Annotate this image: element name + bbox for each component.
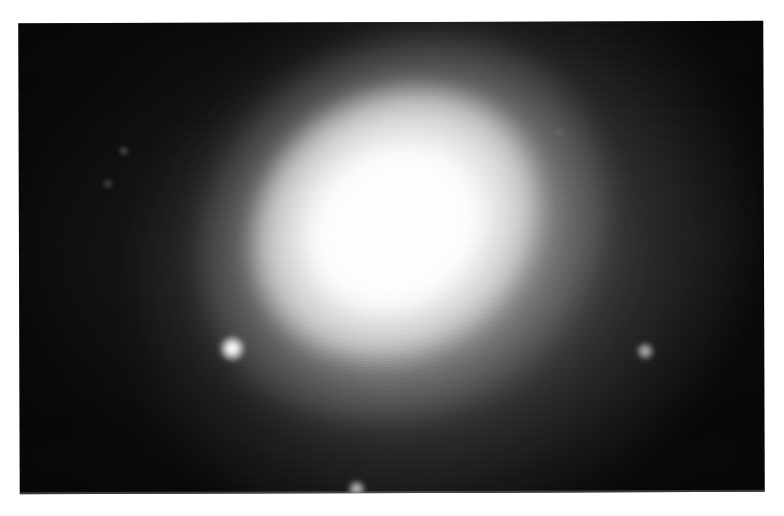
sky-background [18, 21, 764, 494]
page-root [0, 0, 784, 516]
photographic-plate [18, 21, 764, 494]
